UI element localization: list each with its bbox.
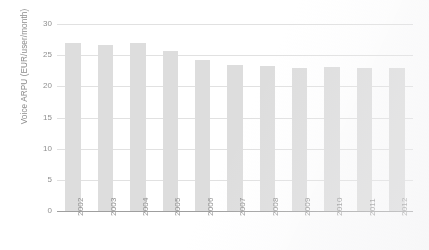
bar xyxy=(227,65,243,211)
x-axis-tick-label: 2010 xyxy=(335,197,344,216)
x-axis-tick-label: 2007 xyxy=(238,197,247,216)
bar xyxy=(324,67,340,211)
x-axis-tick-label: 2004 xyxy=(141,197,150,216)
bar xyxy=(195,60,211,211)
x-axis-tick-label: 2006 xyxy=(206,197,215,216)
gridline xyxy=(57,24,413,25)
bar xyxy=(98,45,114,211)
bar-chart: Voice ARPU (EUR/user/month) 051015202530… xyxy=(0,0,429,250)
bar xyxy=(389,68,405,211)
bar xyxy=(163,51,179,211)
y-axis-tick-label: 15 xyxy=(30,114,52,122)
y-axis-tick-label: 25 xyxy=(30,51,52,59)
x-axis-tick-label: 2009 xyxy=(303,197,312,216)
bar xyxy=(65,43,81,211)
x-axis-tick-label: 2011 xyxy=(368,198,377,216)
plot-area xyxy=(57,24,413,211)
x-axis-tick-label: 2003 xyxy=(109,197,118,216)
x-axis-tick-label: 2012 xyxy=(400,197,409,216)
y-axis-title: Voice ARPU (EUR/user/month) xyxy=(20,0,29,147)
y-axis-tick-label: 30 xyxy=(30,20,52,28)
bar xyxy=(130,43,146,211)
y-axis-tick-label: 10 xyxy=(30,145,52,153)
bar xyxy=(357,68,373,211)
x-axis-tick-label: 2008 xyxy=(271,197,280,216)
bar xyxy=(292,68,308,211)
x-axis-tick-label: 2002 xyxy=(76,197,85,216)
x-axis-tick-label: 2005 xyxy=(173,197,182,216)
y-axis-tick-label: 0 xyxy=(30,207,52,215)
y-axis-tick-label: 5 xyxy=(30,176,52,184)
y-axis-tick-label: 20 xyxy=(30,82,52,90)
bar xyxy=(260,66,276,211)
